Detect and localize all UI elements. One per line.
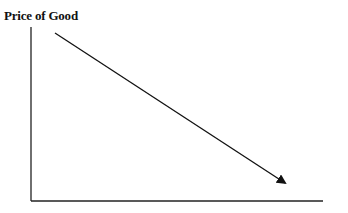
downward-trend-arrow: [55, 33, 285, 183]
price-chart: [0, 0, 348, 213]
